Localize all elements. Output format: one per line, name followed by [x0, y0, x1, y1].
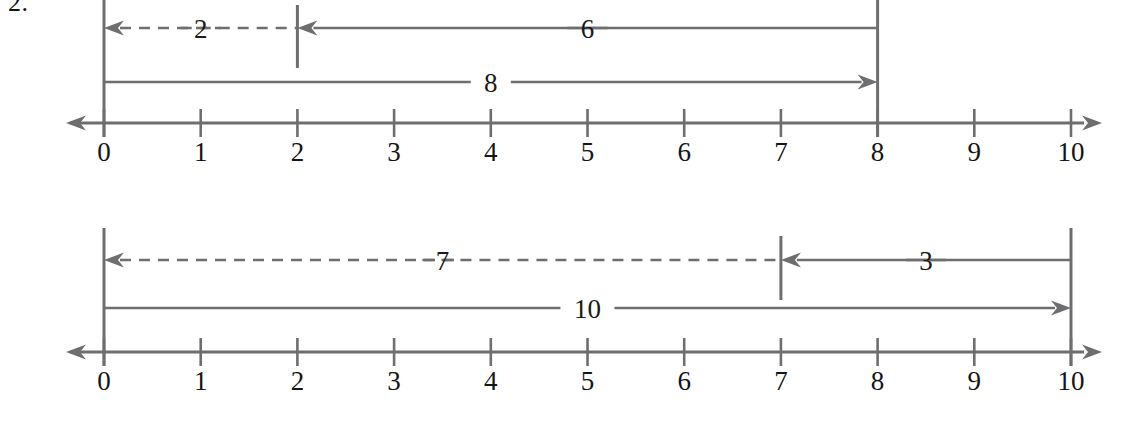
span-value-label: 7	[436, 246, 450, 276]
axis-tick-label: 9	[968, 137, 982, 167]
axis-arrow-right-icon	[1082, 345, 1102, 360]
number-line-figure-2: 0123456789107310	[0, 212, 1124, 442]
worksheet-page: 2. 012345678910268 0123456789107310	[0, 0, 1124, 442]
span-value-label: 3	[919, 246, 933, 276]
axis-tick-label: 10	[1058, 366, 1085, 396]
axis-tick-label: 6	[677, 137, 691, 167]
span-value-label: 10	[574, 294, 601, 324]
axis-tick-label: 2	[291, 137, 305, 167]
axis-tick-label: 7	[774, 137, 788, 167]
span-value-label: 6	[581, 14, 595, 44]
axis-tick-label: 8	[871, 366, 885, 396]
axis-tick-label: 8	[871, 137, 885, 167]
axis-tick-label: 6	[677, 366, 691, 396]
axis-tick-label: 5	[581, 366, 595, 396]
axis-tick-label: 0	[97, 137, 111, 167]
axis-tick-label: 4	[484, 137, 498, 167]
number-line-diagram-1: 012345678910268	[0, 0, 1124, 180]
axis-tick-label: 9	[968, 366, 982, 396]
axis-tick-label: 7	[774, 366, 788, 396]
axis-tick-label: 2	[291, 366, 305, 396]
axis-tick-label: 1	[194, 366, 208, 396]
axis-tick-label: 1	[194, 137, 208, 167]
span-value-label: 8	[484, 68, 498, 98]
axis-tick-label: 3	[387, 137, 401, 167]
number-line-diagram-2: 0123456789107310	[0, 212, 1124, 442]
axis-tick-label: 10	[1058, 137, 1085, 167]
number-line-figure-1: 012345678910268	[0, 0, 1124, 180]
axis-tick-label: 3	[387, 366, 401, 396]
axis-tick-label: 4	[484, 366, 498, 396]
span-value-label: 2	[194, 14, 208, 44]
axis-tick-label: 0	[97, 366, 111, 396]
axis-arrow-right-icon	[1082, 116, 1102, 131]
axis-tick-label: 5	[581, 137, 595, 167]
